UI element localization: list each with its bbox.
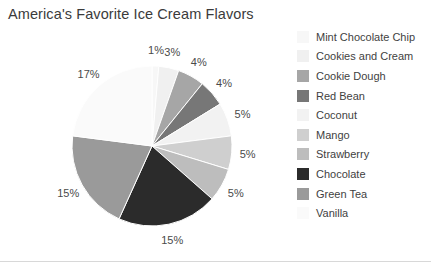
legend-item[interactable]: Red Bean <box>297 86 431 106</box>
legend-item-label: Red Bean <box>316 90 365 102</box>
pie-chart: 1%3%4%4%5%5%5%15%15%17% <box>0 0 290 262</box>
legend-item[interactable]: Strawberry <box>297 145 431 165</box>
legend-swatch-icon <box>297 129 309 141</box>
legend-item[interactable]: Chocolate <box>297 164 431 184</box>
pie-slice-label: 15% <box>161 234 183 246</box>
legend-item[interactable]: Cookies and Cream <box>297 47 431 67</box>
pie-slice-label: 4% <box>216 77 232 89</box>
pie-slices <box>72 66 232 226</box>
legend-item[interactable]: Green Tea <box>297 184 431 204</box>
legend-swatch-icon <box>297 109 309 121</box>
pie-slice-label: 5% <box>235 108 251 120</box>
pie-slice-label: 17% <box>78 68 100 80</box>
legend: Mint Chocolate ChipCookies and CreamCook… <box>297 27 431 223</box>
legend-swatch-icon <box>297 168 309 180</box>
legend-swatch-icon <box>297 207 309 219</box>
pie-slice-label: 1% <box>148 44 164 56</box>
legend-item-label: Mint Chocolate Chip <box>316 31 415 43</box>
pie-slice-label: 4% <box>191 56 207 68</box>
legend-swatch-icon <box>297 188 309 200</box>
pie-slice-label: 5% <box>228 187 244 199</box>
legend-item-label: Chocolate <box>316 168 366 180</box>
legend-item-label: Strawberry <box>316 148 369 160</box>
legend-item[interactable]: Cookie Dough <box>297 66 431 86</box>
legend-swatch-icon <box>297 90 309 102</box>
legend-swatch-icon <box>297 148 309 160</box>
pie-slice-label: 15% <box>57 187 79 199</box>
legend-swatch-icon <box>297 31 309 43</box>
legend-item-label: Mango <box>316 129 350 141</box>
legend-swatch-icon <box>297 50 309 62</box>
pie-svg <box>0 0 290 262</box>
legend-item-label: Vanilla <box>316 207 348 219</box>
legend-item[interactable]: Mango <box>297 125 431 145</box>
legend-item-label: Cookie Dough <box>316 70 386 82</box>
legend-item-label: Green Tea <box>316 188 367 200</box>
legend-item[interactable]: Mint Chocolate Chip <box>297 27 431 47</box>
legend-swatch-icon <box>297 70 309 82</box>
legend-item[interactable]: Vanilla <box>297 203 431 223</box>
pie-slice-label: 3% <box>164 46 180 58</box>
legend-item-label: Coconut <box>316 109 357 121</box>
chart-page: America's Favorite Ice Cream Flavors 1%3… <box>0 0 431 262</box>
legend-item[interactable]: Coconut <box>297 105 431 125</box>
legend-item-label: Cookies and Cream <box>316 50 413 62</box>
pie-slice-label: 5% <box>240 148 256 160</box>
